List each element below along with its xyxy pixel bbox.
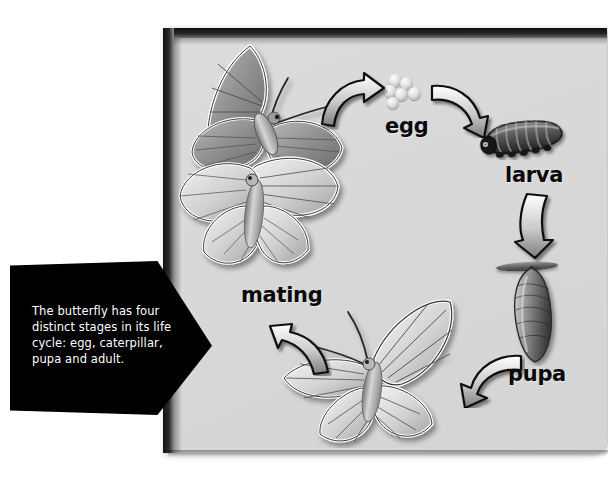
egg-icon xyxy=(387,97,399,109)
callout-text: The butterfly has four distinct stages i… xyxy=(32,303,172,367)
stage-label-mating: mating xyxy=(241,283,322,307)
stage-label-egg: egg xyxy=(385,114,428,138)
arrow-egg-to-larva xyxy=(428,80,498,138)
arrow-larva-to-pupa xyxy=(513,190,563,262)
panel-drop-shadow xyxy=(168,450,608,457)
arrow-adult-to-mating xyxy=(262,314,332,376)
panel-top-edge xyxy=(163,28,607,38)
stage-label-pupa: pupa xyxy=(508,362,566,386)
egg-cluster-art xyxy=(383,74,429,112)
egg-icon xyxy=(408,87,421,100)
arrow-mating-to-egg xyxy=(318,72,388,130)
stage-label-larva: larva xyxy=(505,163,563,187)
